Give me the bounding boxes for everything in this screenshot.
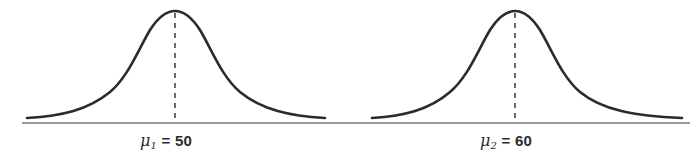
- curves-canvas: [0, 0, 700, 165]
- normal-curve-1: [27, 11, 325, 118]
- mu-equals-1: =: [157, 132, 175, 149]
- mu-symbol-2: μ: [480, 131, 491, 150]
- mu-symbol-1: μ: [140, 131, 151, 150]
- mu-value-2: 60: [515, 132, 532, 149]
- normal-curves-figure: μ1 = 50 μ2 = 60: [0, 0, 700, 165]
- mean-label-2: μ2 = 60: [480, 133, 532, 151]
- mean-label-1: μ1 = 50: [140, 133, 192, 151]
- normal-curve-2: [372, 11, 682, 118]
- mu-value-1: 50: [175, 132, 192, 149]
- mu-equals-2: =: [497, 132, 515, 149]
